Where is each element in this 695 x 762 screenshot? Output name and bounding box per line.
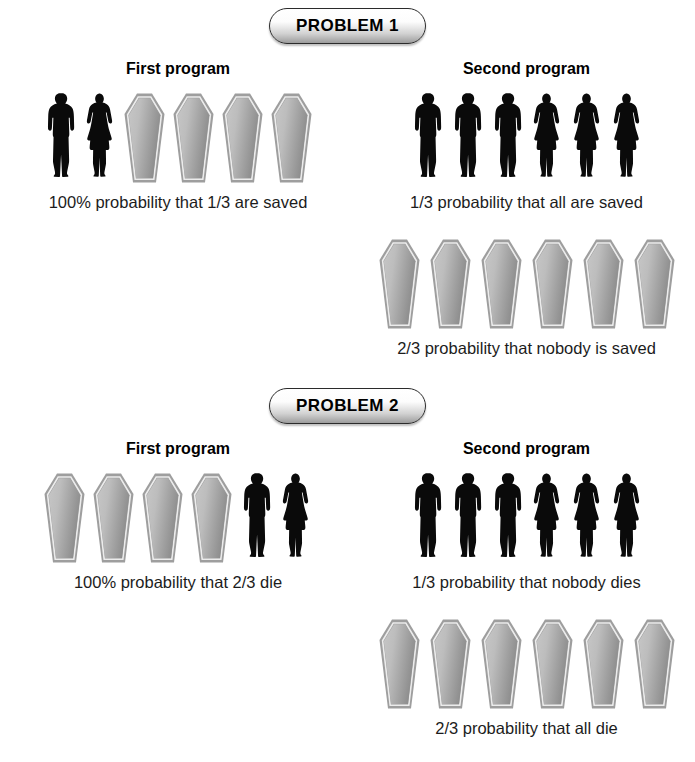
problem-2-first-program-column: First program 100% probability that 2/3 … — [8, 440, 348, 592]
problem-2-columns: First program 100% probability that 2/3 … — [0, 440, 695, 740]
problem-1-first-program-caption: 100% probability that 1/3 are saved — [8, 193, 348, 212]
person-silhouette-icon — [530, 91, 564, 184]
problem-badge-row-2: PROBLEM 2 — [0, 388, 695, 424]
problem-2-first-program-heading: First program — [8, 440, 348, 458]
problem-2-second-program-caption-a: 1/3 probability that nobody dies — [358, 573, 695, 592]
coffin-icon — [581, 238, 626, 330]
person-silhouette-icon — [43, 91, 77, 184]
coffin-icon — [92, 472, 135, 564]
problem-2-second-program-coffin-figures — [358, 614, 695, 710]
problem-1-badge: PROBLEM 1 — [269, 8, 426, 44]
problem-1-first-program-figures — [8, 88, 348, 184]
person-silhouette-icon — [410, 91, 444, 184]
problem-1-second-program-column: Second program 1/3 probability that all … — [358, 60, 695, 358]
problem-1-second-program-heading: Second program — [358, 60, 695, 78]
person-silhouette-icon — [410, 471, 444, 564]
coffin-icon — [581, 618, 626, 710]
person-silhouette-icon — [450, 471, 484, 564]
coffin-icon — [270, 92, 313, 184]
coffin-icon — [530, 238, 575, 330]
coffin-icon — [377, 238, 422, 330]
coffin-icon — [428, 238, 473, 330]
coffin-icon — [141, 472, 184, 564]
coffin-icon — [632, 618, 677, 710]
problem-2-second-program-caption-b: 2/3 probability that all die — [358, 719, 695, 738]
coffin-icon — [479, 618, 524, 710]
coffin-icon — [479, 238, 524, 330]
problem-2-second-program-people-figures — [358, 468, 695, 564]
person-silhouette-icon — [570, 91, 604, 184]
problem-badge-row-1: PROBLEM 1 — [0, 8, 695, 44]
problem-2-second-program-heading: Second program — [358, 440, 695, 458]
problem-1-second-program-caption-a: 1/3 probability that all are saved — [358, 193, 695, 212]
person-silhouette-icon — [490, 471, 524, 564]
person-silhouette-icon — [83, 91, 117, 184]
problem-1-second-program-caption-b: 2/3 probability that nobody is saved — [358, 339, 695, 358]
coffin-icon — [530, 618, 575, 710]
problem-1-second-program-outcome-b: 2/3 probability that nobody is saved — [358, 234, 695, 358]
problem-section-2: PROBLEM 2 First program 100% probability… — [0, 388, 695, 740]
problem-1-first-program-column: First program 100% probability that 1/3 … — [8, 60, 348, 212]
coffin-icon — [172, 92, 215, 184]
problem-1-second-program-people-figures — [358, 88, 695, 184]
person-silhouette-icon — [490, 91, 524, 184]
problem-2-first-program-figures — [8, 468, 348, 564]
problem-1-second-program-coffin-figures — [358, 234, 695, 330]
coffin-icon — [190, 472, 233, 564]
problem-1-first-program-heading: First program — [8, 60, 348, 78]
coffin-icon — [632, 238, 677, 330]
person-silhouette-icon — [610, 91, 644, 184]
problem-2-badge: PROBLEM 2 — [269, 388, 426, 424]
person-silhouette-icon — [239, 471, 273, 564]
person-silhouette-icon — [279, 471, 313, 564]
problem-2-first-program-caption: 100% probability that 2/3 die — [8, 573, 348, 592]
coffin-icon — [221, 92, 264, 184]
coffin-icon — [377, 618, 422, 710]
coffin-icon — [428, 618, 473, 710]
person-silhouette-icon — [570, 471, 604, 564]
person-silhouette-icon — [530, 471, 564, 564]
problem-section-1: PROBLEM 1 First program 100% probability… — [0, 8, 695, 360]
person-silhouette-icon — [610, 471, 644, 564]
problem-2-second-program-column: Second program 1/3 probability that nobo… — [358, 440, 695, 738]
coffin-icon — [123, 92, 166, 184]
problem-2-second-program-outcome-b: 2/3 probability that all die — [358, 614, 695, 738]
coffin-icon — [43, 472, 86, 564]
problem-1-columns: First program 100% probability that 1/3 … — [0, 60, 695, 360]
person-silhouette-icon — [450, 91, 484, 184]
